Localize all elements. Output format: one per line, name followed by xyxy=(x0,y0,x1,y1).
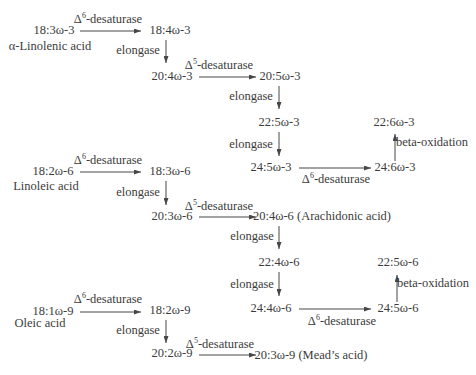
node-20-3w9-meads-acid: 20:3ω-9 (Mead’s acid) xyxy=(254,349,367,363)
enzyme-elongase: elongase xyxy=(230,230,274,244)
enzyme-suffix: -desaturase xyxy=(320,314,376,328)
enzyme-delta6-desaturase: Δ6-desaturase xyxy=(308,315,376,329)
enzyme-delta6-desaturase: Δ6-desaturase xyxy=(74,13,142,27)
node-20-5w3: 20:5ω-3 xyxy=(260,70,301,84)
node-24-6w3: 24:6ω-3 xyxy=(375,161,416,175)
enzyme-suffix: -desaturase xyxy=(86,292,142,306)
label-linoleic-acid: Linoleic acid xyxy=(13,180,79,194)
node-18-3w6: 18:3ω-6 xyxy=(150,165,191,179)
node-18-2w6: 18:2ω-6 xyxy=(33,165,74,179)
enzyme-elongase: elongase xyxy=(116,324,160,338)
node-24-5w6: 24:5ω-6 xyxy=(378,302,419,316)
enzyme-elongase: elongase xyxy=(229,138,273,152)
node-22-5w6: 22:5ω-6 xyxy=(378,256,419,270)
enzyme-prefix: Δ xyxy=(74,292,82,306)
enzyme-suffix: -desaturase xyxy=(197,199,253,213)
node-22-6w3: 22:6ω-3 xyxy=(374,116,415,130)
node-20-4w6-arachidonic-acid: 20:4ω-6 (Arachidonic acid) xyxy=(253,210,391,224)
enzyme-elongase: elongase xyxy=(116,186,160,200)
enzyme-suffix: -desaturase xyxy=(197,58,253,72)
enzyme-delta5-desaturase: Δ5-desaturase xyxy=(185,59,253,73)
enzyme-delta5-desaturase: Δ5-desaturase xyxy=(186,338,254,352)
enzyme-delta6-desaturase: Δ6-desaturase xyxy=(74,293,142,307)
enzyme-prefix: Δ xyxy=(185,58,193,72)
enzyme-elongase: elongase xyxy=(116,44,160,58)
enzyme-delta6-desaturase: Δ6-desaturase xyxy=(302,173,370,187)
node-22-5w3: 22:5ω-3 xyxy=(259,116,300,130)
label-beta-oxidation: beta-oxidation xyxy=(396,136,468,150)
enzyme-suffix: -desaturase xyxy=(86,153,142,167)
fatty-acid-pathway-diagram: 18:3ω-3 α-Linolenic acid Δ6-desaturase 1… xyxy=(0,0,476,375)
node-24-4w6: 24:4ω-6 xyxy=(251,302,292,316)
node-18-2w9: 18:2ω-9 xyxy=(150,304,191,318)
enzyme-prefix: Δ xyxy=(74,153,82,167)
enzyme-prefix: Δ xyxy=(74,12,82,26)
enzyme-elongase: elongase xyxy=(229,90,273,104)
node-18-4w3: 18:4ω-3 xyxy=(150,24,191,38)
enzyme-prefix: Δ xyxy=(308,314,316,328)
enzyme-suffix: -desaturase xyxy=(314,172,370,186)
enzyme-prefix: Δ xyxy=(302,172,310,186)
label-oleic-acid: Oleic acid xyxy=(14,317,65,331)
enzyme-suffix: -desaturase xyxy=(86,12,142,26)
node-24-5w3: 24:5ω-3 xyxy=(251,161,292,175)
enzyme-delta6-desaturase: Δ6-desaturase xyxy=(74,154,142,168)
node-18-3w3: 18:3ω-3 xyxy=(34,24,75,38)
label-beta-oxidation: beta-oxidation xyxy=(397,277,469,291)
label-alpha-linolenic-acid: α-Linolenic acid xyxy=(9,40,92,54)
enzyme-delta5-desaturase: Δ5-desaturase xyxy=(185,200,253,214)
node-22-4w6: 22:4ω-6 xyxy=(259,256,300,270)
enzyme-suffix: -desaturase xyxy=(198,337,254,351)
enzyme-prefix: Δ xyxy=(185,199,193,213)
enzyme-elongase: elongase xyxy=(230,278,274,292)
enzyme-prefix: Δ xyxy=(186,337,194,351)
